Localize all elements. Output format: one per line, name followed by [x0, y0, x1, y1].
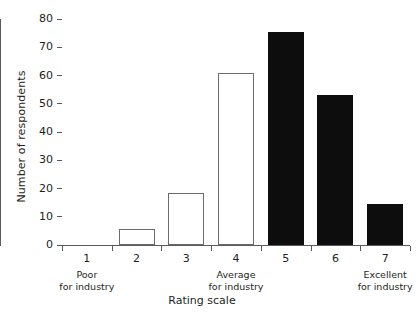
- y-tick-label: 10: [39, 209, 53, 224]
- x-tick-sublabel: Poorfor industry: [27, 269, 147, 292]
- y-tick-label: 20: [39, 181, 53, 196]
- bar: [317, 95, 353, 245]
- bar: [268, 32, 304, 245]
- y-tick-label: 0: [46, 237, 53, 252]
- x-tick-mark: [261, 246, 262, 251]
- y-axis-line: [0, 19, 1, 246]
- x-tick-sublabel-line: for industry: [27, 281, 147, 293]
- x-tick-sublabel-line: Excellent: [325, 269, 420, 281]
- x-tick-mark: [311, 246, 312, 251]
- y-tick-label: 60: [39, 68, 53, 83]
- bar: [119, 229, 155, 245]
- x-tick-mark: [62, 246, 63, 251]
- x-tick-sublabel-line: Poor: [27, 269, 147, 281]
- x-tick-mark: [360, 246, 361, 251]
- x-tick-sublabel-line: Average: [176, 269, 296, 281]
- x-tick-sublabel: Excellentfor industry: [325, 269, 420, 292]
- x-axis-line: [62, 245, 410, 246]
- plot-area: [62, 19, 410, 245]
- bar-chart: Number of respondents 01020304050607080 …: [0, 0, 420, 312]
- x-axis-title: Rating scale: [168, 294, 235, 307]
- x-tick-mark: [112, 246, 113, 251]
- y-tick-label: 70: [39, 39, 53, 54]
- x-tick-mark: [161, 246, 162, 251]
- x-tick-sublabel-line: for industry: [176, 281, 296, 293]
- x-tick-mark: [211, 246, 212, 251]
- x-tick-label: 7: [355, 252, 415, 265]
- x-tick-mark: [410, 246, 411, 251]
- y-tick-label: 40: [39, 124, 53, 139]
- bar: [168, 193, 204, 245]
- y-tick-label: 50: [39, 96, 53, 111]
- y-tick-label: 30: [39, 152, 53, 167]
- y-axis-title: Number of respondents: [15, 37, 28, 237]
- x-axis-title-wrap: Rating scale: [0, 294, 420, 307]
- x-tick-sublabel: Averagefor industry: [176, 269, 296, 292]
- bar: [218, 73, 254, 245]
- x-tick-sublabel-line: for industry: [325, 281, 420, 293]
- bar: [367, 204, 403, 245]
- y-tick-label: 80: [39, 11, 53, 26]
